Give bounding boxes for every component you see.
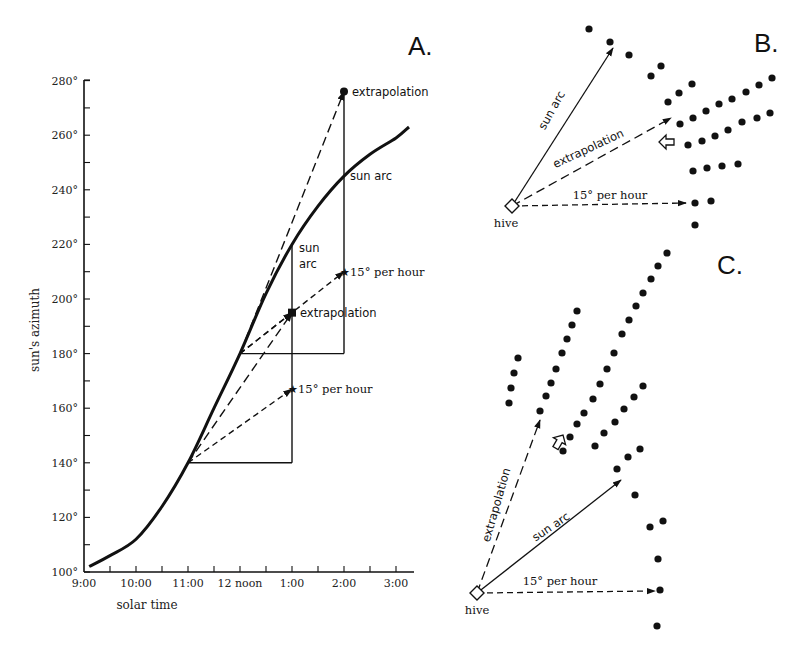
bee-dot <box>559 447 566 454</box>
bee-dot <box>738 118 745 125</box>
bee-dot <box>676 120 683 127</box>
bee-dot <box>659 517 666 524</box>
bee-dot <box>724 126 731 133</box>
bee-dot <box>647 72 654 79</box>
y-tick-label: 220° <box>52 238 79 251</box>
bee-dot <box>536 407 543 414</box>
bee-dot <box>647 275 654 282</box>
hollow-arrow-shape <box>549 432 569 452</box>
bee-dot <box>580 409 587 416</box>
bee-dot <box>573 307 580 314</box>
data-point-square <box>288 309 296 317</box>
bee-dot <box>728 95 735 102</box>
y-tick-label: 140° <box>52 457 79 470</box>
x-tick-label: 3:00 <box>384 577 409 590</box>
annotation-label: 15° per hour <box>350 265 425 279</box>
y-tick-label: 240° <box>52 184 79 197</box>
bee-dot <box>510 369 517 376</box>
bee-dot <box>654 262 661 269</box>
panel-b-label: B. <box>754 28 779 58</box>
chart-axes <box>84 80 414 572</box>
bee-dot <box>620 405 627 412</box>
hollow-arrow-shape <box>659 135 674 149</box>
bee-dot <box>625 51 632 58</box>
y-tick-label: 280° <box>52 75 79 88</box>
bee-dot <box>656 586 663 593</box>
bee-dot <box>684 141 691 148</box>
bee-dot <box>611 418 618 425</box>
bee-dot <box>734 160 741 167</box>
bee-dot <box>636 445 643 452</box>
star-marker-icon: ★ <box>340 266 350 279</box>
bee-dot <box>563 335 570 342</box>
bee-dot <box>718 162 725 169</box>
y-tick-label: 120° <box>52 511 79 524</box>
bee-dot <box>630 393 637 400</box>
bee-dot <box>755 81 762 88</box>
bee-dot <box>663 249 670 256</box>
flight-arrows <box>477 420 655 593</box>
bee-dot <box>707 197 714 204</box>
bee-dots <box>505 249 670 629</box>
bee-dot <box>691 199 698 206</box>
sun-arc-arrow <box>512 48 613 206</box>
bee-dot <box>625 316 632 323</box>
bee-dot <box>568 321 575 328</box>
bee-dot <box>603 365 610 372</box>
annotation-label: 15° per hour <box>298 382 373 396</box>
bee-dot <box>698 137 705 144</box>
x-tick-label: 2:00 <box>332 577 357 590</box>
construction-lines <box>188 92 344 463</box>
bee-dot <box>514 354 521 361</box>
per-hour-arrow <box>512 203 686 206</box>
bee-dot <box>688 80 695 87</box>
bee-dot <box>632 302 639 309</box>
bee-dot <box>613 465 620 472</box>
y-tick-label: 160° <box>52 402 79 415</box>
bee-dot <box>691 221 698 228</box>
bee-dot <box>542 392 549 399</box>
bee-dot <box>639 289 646 296</box>
annotation-label: extrapolation <box>300 306 377 320</box>
x-axis-ticks: 9:0010:0011:0012 noon1:002:003:00 <box>72 566 409 590</box>
bee-dot <box>657 62 664 69</box>
hive-marker <box>470 586 484 600</box>
bee-dot <box>566 433 573 440</box>
bee-dot <box>591 442 598 449</box>
x-tick-label: 9:00 <box>72 577 97 590</box>
x-tick-label: 10:00 <box>120 577 152 590</box>
x-tick-label: 11:00 <box>172 577 204 590</box>
bee-dot <box>689 167 696 174</box>
extrapolation-arrow <box>477 420 540 593</box>
bee-dot <box>664 98 671 105</box>
bee-dot <box>558 349 565 356</box>
hollow-arrow-icon <box>549 432 569 452</box>
annotation-label: extrapolation <box>352 85 429 99</box>
bee-dot <box>715 100 722 107</box>
bee-dot <box>610 349 617 356</box>
bee-dot <box>766 109 773 116</box>
annotation-label: arc <box>299 257 317 271</box>
annotation-label: sun arc <box>350 169 392 183</box>
bee-dot <box>768 74 775 81</box>
panel-c-diagram: C. hive extrapolation sun arc 15° per ho… <box>465 249 743 629</box>
panel-a-label: A. <box>408 31 433 61</box>
per-hour-arrow <box>477 591 655 593</box>
x-tick-label: 1:00 <box>280 577 305 590</box>
hive-diamond-icon <box>505 199 519 213</box>
hive-marker <box>505 199 519 213</box>
star-marker-icon: ★ <box>288 383 298 396</box>
y-tick-label: 260° <box>52 129 79 142</box>
bee-dot <box>507 384 514 391</box>
sun-arc-label: sun arc <box>529 509 572 544</box>
bee-dot <box>703 164 710 171</box>
x-axis-title: solar time <box>116 598 177 612</box>
bee-dot <box>505 399 512 406</box>
y-tick-label: 180° <box>52 348 79 361</box>
bee-dot <box>689 114 696 121</box>
bee-dot <box>585 25 592 32</box>
bee-dot <box>639 382 646 389</box>
extrapolation-label: extrapolation <box>479 466 514 543</box>
bee-dot <box>742 88 749 95</box>
panel-b-diagram: B. hive sun arc extrapolation 15° per ho… <box>494 25 779 230</box>
